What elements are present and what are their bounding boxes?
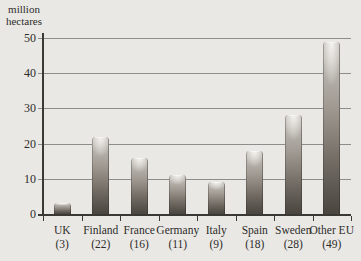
y-axis-line: [42, 33, 44, 216]
x-label-other-eu: Other EU(49): [306, 223, 358, 251]
bar-sweden: [285, 115, 302, 214]
y-tick-label-0: 0: [10, 208, 36, 220]
bar-chart: million hectares 01020304050UK(3)Finland…: [0, 0, 361, 261]
bar-france: [131, 158, 148, 214]
x-axis-tick: [236, 216, 237, 221]
x-axis-tick: [82, 216, 83, 221]
y-tick-label-10: 10: [10, 173, 36, 185]
bar-other-eu: [323, 42, 340, 214]
x-axis-tick: [351, 216, 352, 221]
bar-uk: [54, 203, 71, 214]
grid-line-40: [38, 73, 351, 74]
category-value: (49): [306, 237, 358, 251]
grid-line-30: [38, 108, 351, 109]
y-tick-label-30: 30: [10, 102, 36, 114]
grid-line-20: [38, 144, 351, 145]
unit-label-line-1: million: [8, 3, 40, 15]
y-tick-label-20: 20: [10, 138, 36, 150]
x-axis-tick: [43, 216, 44, 221]
x-axis-tick: [159, 216, 160, 221]
x-axis-tick: [313, 216, 314, 221]
category-name: Other EU: [306, 223, 358, 237]
grid-line-50: [38, 38, 351, 39]
x-axis-tick: [120, 216, 121, 221]
x-axis-line: [38, 214, 351, 216]
x-axis-tick: [274, 216, 275, 221]
bar-spain: [246, 151, 263, 214]
x-axis-tick: [197, 216, 198, 221]
y-axis-unit-label: million hectares: [2, 3, 46, 27]
bar-italy: [208, 182, 225, 214]
bar-finland: [92, 137, 109, 214]
bar-germany: [169, 175, 186, 214]
grid-line-10: [38, 179, 351, 180]
y-tick-label-40: 40: [10, 67, 36, 79]
unit-label-line-2: hectares: [6, 15, 42, 27]
y-tick-label-50: 50: [10, 32, 36, 44]
